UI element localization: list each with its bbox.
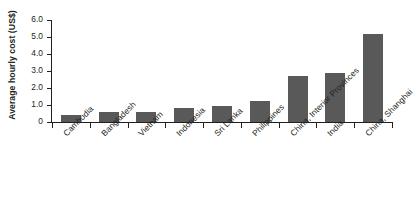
y-axis-tick-label: 1.0 — [31, 99, 43, 109]
y-axis-tick-label: 4.0 — [31, 48, 43, 58]
y-axis-tick-label: 6.0 — [31, 14, 43, 24]
y-axis-tick-label: 5.0 — [31, 31, 43, 41]
x-axis-tick-mark — [90, 123, 91, 128]
y-axis-tick-label: 2.0 — [31, 82, 43, 92]
y-axis-title: Average hourly cost (US$) — [0, 0, 24, 130]
x-axis-tick-mark — [52, 123, 53, 128]
x-axis-tick-mark — [241, 123, 242, 128]
y-axis-tick-label: 3.0 — [31, 65, 43, 75]
x-axis-tick-mark — [392, 123, 393, 128]
bar — [363, 34, 383, 122]
x-axis-tick-mark — [316, 123, 317, 128]
y-axis-title-text: Average hourly cost (US$) — [7, 10, 17, 120]
x-axis-tick-mark — [165, 123, 166, 128]
x-axis-tick-mark — [203, 123, 204, 128]
x-axis-tick-mark — [128, 123, 129, 128]
x-axis-tick-mark — [354, 123, 355, 128]
x-axis-tick-mark — [279, 123, 280, 128]
plot-area — [52, 20, 392, 122]
y-axis-tick-label: 0 — [38, 116, 43, 126]
